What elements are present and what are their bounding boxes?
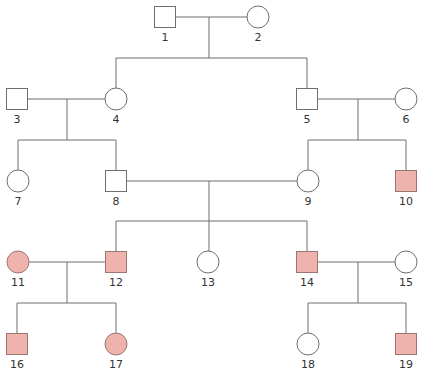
affected-male-square-icon <box>106 252 127 273</box>
individual-label: 19 <box>399 358 413 371</box>
individual-3: 3 <box>7 89 28 127</box>
female-circle-icon <box>247 6 269 28</box>
affected-female-circle-icon <box>7 251 29 273</box>
individual-label: 1 <box>162 31 169 44</box>
individual-11: 11 <box>7 251 29 289</box>
male-square-icon <box>106 171 127 192</box>
individual-10: 10 <box>396 171 417 209</box>
individual-6: 6 <box>395 88 417 126</box>
individual-label: 7 <box>15 195 22 208</box>
affected-male-square-icon <box>297 252 318 273</box>
individual-label: 6 <box>403 113 410 126</box>
female-circle-icon <box>395 88 417 110</box>
female-circle-icon <box>197 251 219 273</box>
pedigree-svg: 12345678910111213141516171819 <box>0 0 427 379</box>
male-square-icon <box>155 7 176 28</box>
female-circle-icon <box>105 88 127 110</box>
individual-12: 12 <box>106 252 127 290</box>
pedigree-chart: 12345678910111213141516171819 <box>0 0 427 379</box>
male-square-icon <box>297 89 318 110</box>
individual-label: 4 <box>113 113 120 126</box>
individual-14: 14 <box>297 252 318 290</box>
individual-label: 14 <box>300 276 314 289</box>
individuals: 12345678910111213141516171819 <box>7 6 418 371</box>
individual-label: 11 <box>11 276 25 289</box>
individual-label: 5 <box>304 113 311 126</box>
female-circle-icon <box>297 333 319 355</box>
individual-16: 16 <box>7 334 28 372</box>
individual-4: 4 <box>105 88 127 126</box>
individual-label: 13 <box>201 276 215 289</box>
affected-female-circle-icon <box>105 333 127 355</box>
individual-label: 8 <box>113 195 120 208</box>
individual-2: 2 <box>247 6 269 44</box>
individual-label: 2 <box>255 31 262 44</box>
individual-label: 10 <box>399 195 413 208</box>
individual-13: 13 <box>197 251 219 289</box>
individual-5: 5 <box>297 89 318 127</box>
affected-male-square-icon <box>396 171 417 192</box>
individual-17: 17 <box>105 333 127 371</box>
individual-label: 17 <box>109 358 123 371</box>
individual-19: 19 <box>396 334 417 372</box>
individual-label: 9 <box>305 195 312 208</box>
individual-label: 3 <box>14 113 21 126</box>
individual-label: 15 <box>399 276 413 289</box>
male-square-icon <box>7 89 28 110</box>
individual-18: 18 <box>297 333 319 371</box>
individual-7: 7 <box>7 170 29 208</box>
individual-8: 8 <box>106 171 127 209</box>
individual-9: 9 <box>297 170 319 208</box>
female-circle-icon <box>395 251 417 273</box>
affected-male-square-icon <box>7 334 28 355</box>
affected-male-square-icon <box>396 334 417 355</box>
individual-label: 12 <box>109 276 123 289</box>
female-circle-icon <box>297 170 319 192</box>
individual-1: 1 <box>155 7 176 45</box>
individual-label: 16 <box>10 358 24 371</box>
female-circle-icon <box>7 170 29 192</box>
individual-15: 15 <box>395 251 417 289</box>
individual-label: 18 <box>301 358 315 371</box>
